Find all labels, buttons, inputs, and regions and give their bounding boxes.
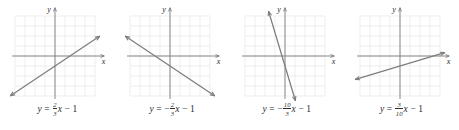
coordinate-plane: xy — [7, 2, 107, 102]
eq-minus: − — [298, 104, 303, 114]
eq-constant: 1 — [418, 104, 423, 114]
eq-denominator: 10 — [395, 110, 403, 117]
eq-minus: − — [410, 104, 415, 114]
graph-panel-panel-c: xyy = −103x − 1 — [230, 0, 345, 130]
eq-fraction: 23 — [170, 101, 174, 117]
eq-equals: = — [387, 104, 392, 114]
eq-sign: − — [164, 104, 169, 114]
eq-variable: x — [58, 104, 62, 114]
eq-minus: − — [64, 104, 69, 114]
eq-constant: 1 — [306, 104, 311, 114]
eq-variable: x — [175, 104, 179, 114]
eq-equals: = — [44, 104, 49, 114]
eq-numerator: 10 — [283, 101, 291, 108]
plot-svg: xy — [7, 2, 107, 102]
plot-svg: xy — [122, 2, 222, 102]
eq-fraction: 310 — [395, 101, 403, 117]
eq-lhs: y — [380, 104, 384, 114]
eq-denominator: 3 — [283, 110, 291, 117]
x-axis-label: x — [101, 57, 106, 66]
eq-denominator: 3 — [53, 110, 57, 117]
eq-denominator: 3 — [170, 110, 174, 117]
eq-variable: x — [404, 104, 408, 114]
x-axis-label: x — [445, 57, 450, 66]
eq-numerator: 2 — [170, 101, 174, 108]
eq-minus: − — [182, 104, 187, 114]
graph-panel-panel-b: xyy = −23x − 1 — [115, 0, 230, 130]
y-axis-label: y — [161, 5, 166, 14]
eq-sign: − — [277, 104, 282, 114]
y-axis-label: y — [276, 5, 281, 14]
eq-fraction: 103 — [283, 101, 291, 117]
eq-numerator: 2 — [53, 101, 57, 108]
eq-equals: = — [156, 104, 161, 114]
graph-panel-panel-d: xyy = 310x − 1 — [344, 0, 459, 130]
eq-variable: x — [292, 104, 296, 114]
y-axis-label: y — [391, 5, 396, 14]
equation-caption: y = −23x − 1 — [149, 101, 194, 117]
equation-caption: y = 23x − 1 — [37, 101, 77, 117]
y-axis-label: y — [47, 5, 52, 14]
eq-lhs: y — [263, 104, 267, 114]
x-axis-label: x — [216, 57, 221, 66]
eq-numerator: 3 — [395, 101, 403, 108]
eq-constant: 1 — [72, 104, 77, 114]
equation-caption: y = −103x − 1 — [263, 101, 312, 117]
eq-fraction: 23 — [53, 101, 57, 117]
axes — [357, 8, 449, 99]
coordinate-plane: xy — [122, 2, 222, 102]
eq-equals: = — [269, 104, 274, 114]
graph-figure-row: xyy = 23x − 1xyy = −23x − 1xyy = −103x −… — [0, 0, 459, 130]
axes — [242, 8, 334, 99]
plot-svg: xy — [237, 2, 337, 102]
coordinate-plane: xy — [352, 2, 452, 102]
graph-panel-panel-a: xyy = 23x − 1 — [0, 0, 115, 130]
eq-constant: 1 — [190, 104, 195, 114]
eq-lhs: y — [37, 104, 41, 114]
x-axis-label: x — [331, 57, 336, 66]
axes — [127, 8, 219, 99]
equation-caption: y = 310x − 1 — [380, 101, 423, 117]
plot-svg: xy — [352, 2, 452, 102]
eq-lhs: y — [149, 104, 153, 114]
coordinate-plane: xy — [237, 2, 337, 102]
